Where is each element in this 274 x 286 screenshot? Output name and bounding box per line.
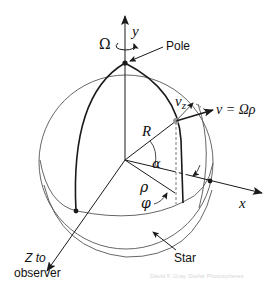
star-label: Star [174, 251, 196, 265]
x-axis-inner [125, 160, 172, 171]
z-axis-label-line1: Z to [24, 251, 46, 265]
omega-label: Ω [99, 36, 111, 52]
z-axis-limb-point [74, 209, 79, 214]
limb-meridian [198, 104, 206, 208]
rotating-star-diagram: y Ω Pole R α ρ φ x vz v = Ωρ Z to observ… [0, 0, 274, 286]
velocity-label: v = Ωρ [216, 102, 256, 117]
vz-subscript: z [181, 99, 187, 111]
x-axis-dashed [172, 171, 186, 175]
rho-line [125, 160, 175, 193]
y-axis-label: y [130, 23, 139, 39]
vz-dashed-extension [196, 104, 204, 109]
x-axis-limb-point [208, 179, 213, 184]
x-axis [186, 175, 262, 194]
pole-label: Pole [166, 39, 190, 53]
meridian-right [125, 63, 183, 203]
star-pointer-arrow [153, 232, 176, 250]
watermark: David F. Gray Stellar Photospheres [150, 273, 244, 279]
z-axis-label-observer: observer [14, 266, 61, 280]
radius-label: R [141, 123, 151, 139]
alpha-label: α [152, 156, 161, 171]
vz-label: vz [175, 93, 187, 111]
phi-label: φ [141, 195, 151, 211]
pole-pointer-arrow [130, 47, 163, 61]
x-axis-label: x [238, 195, 246, 211]
star-outline [39, 75, 213, 249]
lower-rim-arc [44, 185, 212, 257]
equator-arc [40, 160, 213, 216]
meridian-left [75, 63, 125, 211]
equator-pointer-arrow [193, 165, 200, 176]
rho-label: ρ [139, 179, 149, 195]
phi-arc-arrow [154, 193, 167, 204]
z-axis-label: Z to [24, 251, 46, 265]
pole-point [122, 60, 127, 65]
